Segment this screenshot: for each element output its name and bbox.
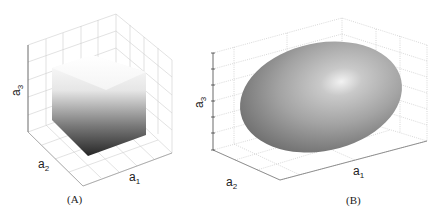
caption-b: (B) bbox=[346, 194, 361, 207]
caption-a: (A) bbox=[67, 193, 83, 206]
figure: a3 a2 a1 (A) bbox=[0, 0, 439, 214]
axis-label-a3: a3 bbox=[9, 84, 25, 96]
cube bbox=[52, 55, 146, 156]
axis-label-a2: a2 bbox=[38, 157, 50, 173]
panel-b: a3 a2 a1 (B) bbox=[192, 18, 427, 207]
axis-label-a1: a1 bbox=[353, 164, 365, 180]
axis-label-a1: a1 bbox=[129, 170, 141, 186]
panel-a: a3 a2 a1 (A) bbox=[9, 14, 172, 206]
axis-label-a3: a3 bbox=[192, 96, 208, 108]
ellipsoid bbox=[230, 27, 413, 167]
axis-label-a2: a2 bbox=[226, 175, 238, 191]
